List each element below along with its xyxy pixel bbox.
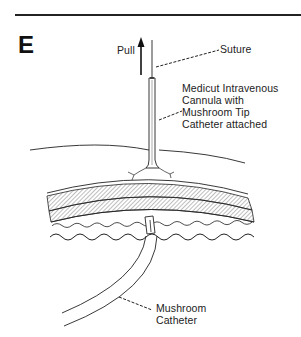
- cannula-label-line: Mushroom Tip: [182, 106, 278, 118]
- suture-leader: [156, 50, 219, 67]
- catheter-leader: [119, 297, 152, 310]
- catheter-diagram: [0, 0, 301, 337]
- mushroom-catheter: [62, 236, 157, 326]
- skin-surface: [30, 145, 245, 163]
- cannula-label-line: Medicut Intravenous: [182, 82, 278, 94]
- skin-pucker: [128, 168, 174, 180]
- mushroom-tip: [145, 216, 155, 234]
- suture-label: Suture: [220, 43, 252, 55]
- cannula: [146, 78, 159, 168]
- cannula-label: Medicut Intravenous Cannula with Mushroo…: [182, 82, 278, 130]
- catheter-label-line: Mushroom: [156, 302, 206, 314]
- cannula-label-line: Cannula with: [182, 94, 278, 106]
- cannula-leader: [159, 111, 182, 120]
- pull-arrow-icon: [138, 37, 145, 75]
- catheter-label: Mushroom Catheter: [156, 302, 206, 326]
- catheter-label-line: Catheter: [156, 314, 206, 326]
- cannula-label-line: Catheter attached: [182, 118, 278, 130]
- pull-label: Pull: [117, 44, 135, 56]
